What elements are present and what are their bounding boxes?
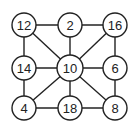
node-label: 6 [111,61,118,76]
node-16: 16 [103,13,127,37]
node-18: 18 [58,96,82,120]
node-12: 12 [12,13,36,37]
node-2: 2 [58,13,82,37]
node-label: 8 [111,101,118,116]
node-label: 10 [63,61,77,76]
node-14: 14 [12,56,36,80]
node-label: 18 [63,101,77,116]
node-10: 10 [57,55,83,81]
node-6: 6 [103,56,127,80]
node-label: 4 [20,101,27,116]
node-4: 4 [12,96,36,120]
node-label: 14 [17,61,31,76]
number-graph-diagram: 12216141064188 [0,0,134,122]
node-label: 12 [17,18,31,33]
node-label: 2 [66,18,73,33]
nodes: 12216141064188 [12,13,127,120]
node-label: 16 [108,18,122,33]
node-8: 8 [103,96,127,120]
